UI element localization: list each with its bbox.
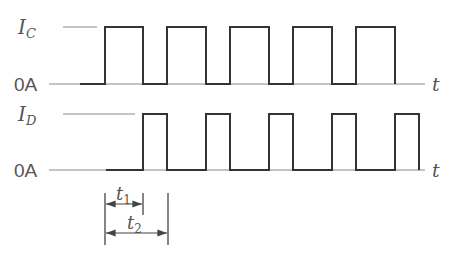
square-wave (106, 114, 419, 170)
ic-zero-label: 0A (14, 74, 38, 95)
timing-diagram: IC 0A t ID 0A t t1 t2 (0, 0, 458, 264)
id-label: ID (17, 102, 37, 128)
timing-dimensions: t1 t2 (105, 183, 168, 245)
t2-label: t2 (127, 212, 142, 236)
ic-time-axis-label: t (432, 73, 440, 95)
id-waveform (49, 114, 425, 170)
signal-id: ID 0A t (14, 102, 440, 181)
id-zero-label: 0A (14, 160, 38, 181)
t1-label: t1 (116, 183, 131, 207)
id-time-axis-label: t (432, 159, 440, 181)
square-wave (80, 27, 395, 84)
ic-waveform (49, 27, 425, 84)
signal-ic: IC 0A t (14, 15, 440, 95)
ic-label: IC (17, 15, 36, 41)
